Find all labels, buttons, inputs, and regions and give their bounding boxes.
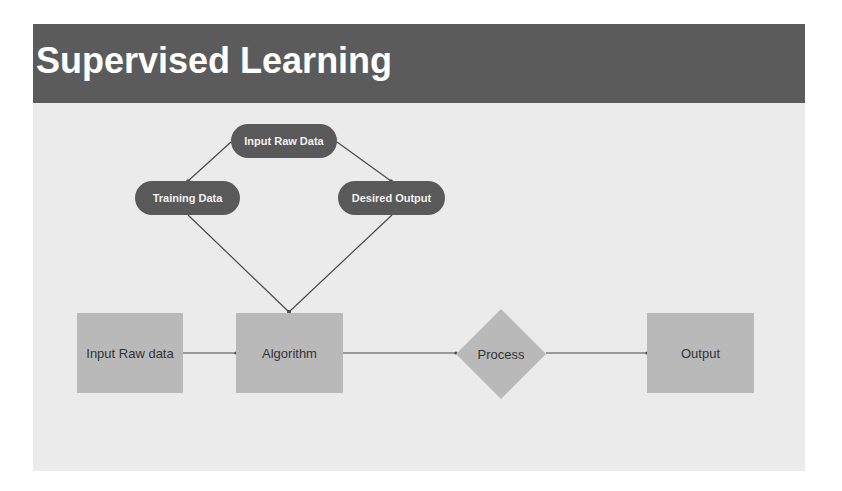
pill-input-raw-data: Input Raw Data xyxy=(231,124,337,158)
box-algorithm: Algorithm xyxy=(236,313,343,393)
box-input-raw-data: Input Raw data xyxy=(77,313,183,393)
line-input-to-desired xyxy=(337,142,391,181)
diamond-label: Process xyxy=(478,347,525,362)
box-label: Output xyxy=(681,346,720,361)
pill-label: Training Data xyxy=(153,192,223,204)
pill-desired-output: Desired Output xyxy=(338,181,445,215)
pill-label: Desired Output xyxy=(352,192,431,204)
box-label: Algorithm xyxy=(262,346,317,361)
line-input-to-training xyxy=(188,142,231,181)
process-diamond: Process xyxy=(456,309,546,399)
pill-label: Input Raw Data xyxy=(244,135,323,147)
line-desired-to-algorithm xyxy=(289,215,392,312)
connector-lines xyxy=(0,0,842,491)
line-training-to-algorithm xyxy=(188,215,289,312)
pill-training-data: Training Data xyxy=(135,181,240,215)
box-label: Input Raw data xyxy=(86,346,173,361)
box-output: Output xyxy=(647,313,754,393)
